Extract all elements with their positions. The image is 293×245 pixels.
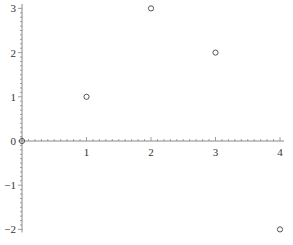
data-point <box>277 227 282 232</box>
data-point <box>84 94 89 99</box>
axes <box>22 4 284 232</box>
y-tick-label: 2 <box>11 47 17 59</box>
scatter-chart: 12343210−1−2 <box>0 0 293 245</box>
y-tick-label: 1 <box>11 91 17 103</box>
y-tick-label: −2 <box>4 223 16 235</box>
data-points <box>19 6 282 232</box>
x-tick-label: 2 <box>148 146 154 158</box>
ticks <box>18 8 280 229</box>
data-point <box>148 6 153 11</box>
y-tick-label: 0 <box>11 135 17 147</box>
data-point <box>213 50 218 55</box>
y-tick-label: 3 <box>11 2 17 14</box>
y-tick-label: −1 <box>4 179 16 191</box>
x-tick-label: 1 <box>84 146 90 158</box>
x-tick-label: 3 <box>213 146 219 158</box>
x-tick-label: 4 <box>277 146 283 158</box>
tick-labels: 12343210−1−2 <box>4 2 283 235</box>
